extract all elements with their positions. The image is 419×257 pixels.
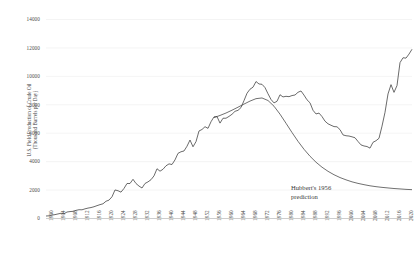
y-axis-tick-label: 14000 [6,16,40,22]
x-axis-tick-label: 1912 [84,210,90,221]
y-axis-tick-label: 8000 [6,102,40,108]
x-axis-tick-label: 1980 [288,210,294,221]
series-line-us-crude-production [46,49,412,216]
x-axis-tick-label: 1908 [72,210,78,221]
x-axis-tick-label: 2000 [348,210,354,221]
x-axis-tick-label: 2012 [384,210,390,221]
x-axis-tick-label: 1948 [192,210,198,221]
chart-container: U.S. Field Production of Crude Oil (Thou… [0,0,419,257]
x-axis-tick-label: 1928 [132,210,138,221]
x-axis-tick-label: 1992 [324,210,330,221]
y-axis-tick-label: 2000 [6,187,40,193]
x-axis-tick-label: 1924 [120,210,126,221]
x-axis-tick-label: 1916 [96,210,102,221]
x-axis-tick-label: 1900 [48,210,54,221]
x-axis-tick-label: 2008 [372,210,378,221]
x-axis-tick-label: 1984 [300,210,306,221]
annotation-line1: Hubbert's 1956 [291,183,331,192]
x-axis-tick-label: 1904 [60,210,66,221]
x-axis-tick-label: 2004 [360,210,366,221]
annotation-line2: prediction [291,192,331,201]
x-axis-tick-label: 1920 [108,210,114,221]
x-axis-tick-label: 1988 [312,210,318,221]
y-axis-title: U.S. Field Production of Crude Oil (Thou… [26,72,40,168]
x-axis-tick-label: 1996 [336,210,342,221]
x-axis-tick-label: 1940 [168,210,174,221]
series-line-hubbert-prediction [214,98,412,190]
x-axis-tick-label: 1936 [156,210,162,221]
y-axis-tick-label: 12000 [6,45,40,51]
y-axis-tick-label: 4000 [6,158,40,164]
x-axis-tick-label: 1944 [180,210,186,221]
y-axis-tick-label: 6000 [6,130,40,136]
annotation-hubbert-prediction: Hubbert's 1956 prediction [291,183,331,201]
gridlines [46,20,412,219]
x-axis-tick-label: 1932 [144,210,150,221]
x-axis-tick-label: 1976 [276,210,282,221]
x-axis-tick-label: 1952 [204,210,210,221]
x-axis-tick-label: 2016 [396,210,402,221]
x-axis-tick-label: 1956 [216,210,222,221]
x-axis-tick-label: 2020 [408,210,414,221]
y-axis-tick-label: 10000 [6,73,40,79]
x-axis-tick-label: 1960 [228,210,234,221]
y-axis-title-line2: (Thousand Barrels per Day) [32,72,38,168]
x-axis-tick-label: 1968 [252,210,258,221]
x-axis-tick-label: 1964 [240,210,246,221]
y-axis-tick-label: 0 [6,215,40,221]
x-axis-tick-label: 1972 [264,210,270,221]
